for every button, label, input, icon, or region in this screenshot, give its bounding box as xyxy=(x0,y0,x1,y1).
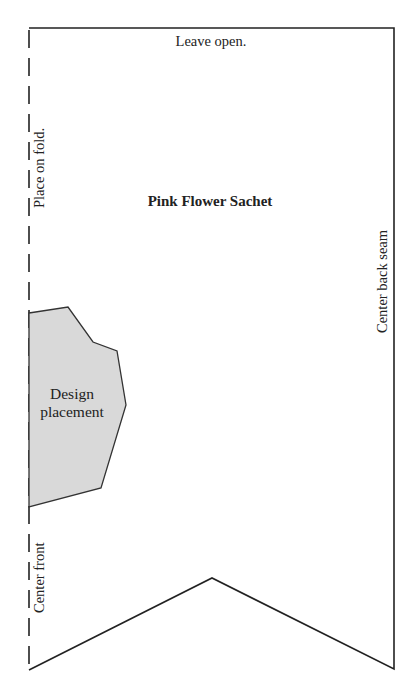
leave-open-label: Leave open. xyxy=(0,33,420,50)
sachet-pattern-outline xyxy=(0,0,420,696)
place-on-fold-label: Place on fold. xyxy=(31,128,48,208)
center-front-label: Center front xyxy=(31,543,48,613)
pattern-title: Pink Flower Sachet xyxy=(0,193,420,210)
design-placement-label: Design placement xyxy=(32,385,112,421)
center-back-seam-label: Center back seam xyxy=(374,230,391,333)
